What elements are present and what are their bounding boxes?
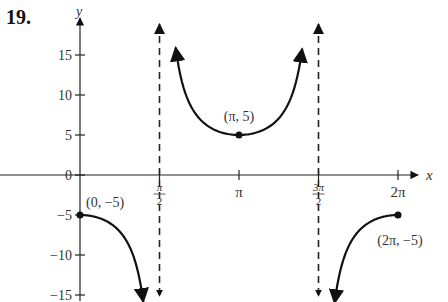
point-label: (2π, −5) (377, 233, 423, 249)
y-tick-label: 10 (58, 88, 72, 103)
y-tick-label: 15 (58, 48, 72, 63)
secant-branch-1 (80, 215, 143, 302)
point-marker (236, 132, 243, 139)
secant-branch-3 (335, 215, 398, 302)
x-tick-label: π (235, 184, 243, 200)
x-tick-label: 2π (390, 184, 406, 200)
secant-graph: xy151050−5−10−15π2π3π22π(0, −5)(π, 5)(2π… (0, 0, 448, 302)
y-tick-label: −15 (50, 288, 72, 302)
x-tick-label-den: 2 (316, 195, 322, 207)
point-label: (π, 5) (224, 109, 255, 125)
x-tick-label-num: 3π (312, 181, 325, 193)
x-tick-label-num: π (157, 181, 163, 193)
x-tick-label-den: 2 (157, 195, 163, 207)
y-tick-label: 0 (65, 168, 72, 183)
x-axis-label: x (425, 167, 433, 183)
point-marker (395, 212, 402, 219)
y-tick-label: 5 (65, 128, 72, 143)
labels: xy151050−5−10−15π2π3π22π(0, −5)(π, 5)(2π… (50, 4, 433, 302)
point-marker (77, 212, 84, 219)
point-label: (0, −5) (86, 195, 125, 211)
y-tick-label: −5 (57, 208, 72, 223)
y-axis-label: y (74, 4, 83, 19)
y-tick-label: −10 (50, 248, 72, 263)
asymptotes (160, 24, 319, 296)
